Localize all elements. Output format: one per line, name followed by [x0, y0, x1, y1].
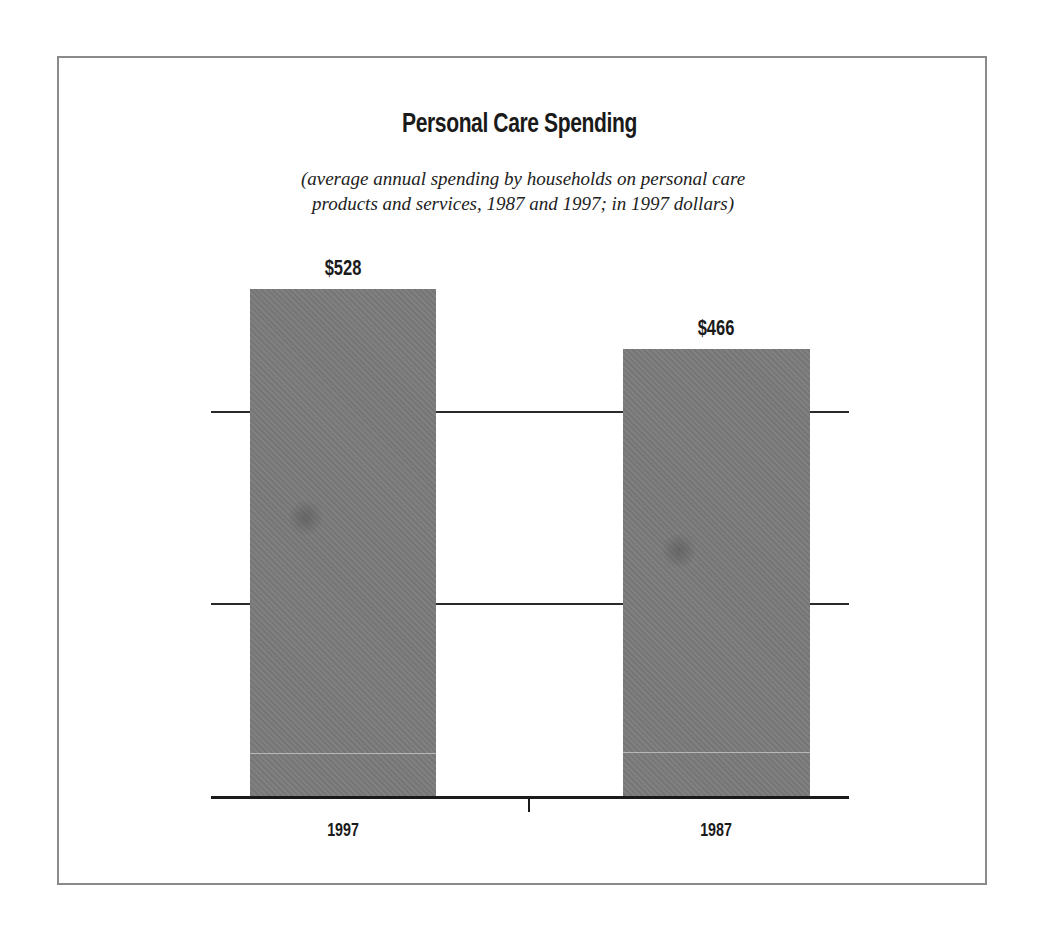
bar-1997 [250, 289, 436, 797]
x-axis-tick [528, 797, 530, 812]
x-axis-baseline [211, 796, 849, 799]
bar-highlight-line [250, 753, 436, 754]
value-label-1997: $528 [268, 255, 418, 281]
category-label-1997: 1997 [268, 819, 418, 841]
category-label-1987: 1987 [641, 819, 791, 841]
bar-1987 [623, 349, 810, 797]
value-label-1987: $466 [641, 315, 791, 341]
bar-highlight-line [623, 752, 810, 753]
plot-area: $528 $466 1997 1987 [0, 0, 1037, 942]
